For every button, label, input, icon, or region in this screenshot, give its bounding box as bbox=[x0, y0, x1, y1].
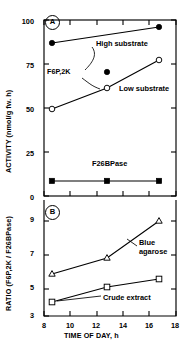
series-crude-extract bbox=[49, 276, 162, 305]
series-low-substrate bbox=[49, 57, 162, 112]
panel-a-axes bbox=[44, 20, 176, 196]
marker-open-triangle bbox=[104, 255, 110, 261]
marker-open-triangle bbox=[156, 218, 162, 224]
marker-filled-square bbox=[49, 178, 54, 183]
marker-filled-square bbox=[156, 178, 161, 183]
plot-vector-layer bbox=[0, 0, 194, 344]
marker-filled-circle bbox=[49, 40, 54, 45]
marker-open-circle bbox=[104, 85, 110, 91]
figure-root: ACTIVITY (nmol/g fw. h) 100 75 50 25 0 A… bbox=[0, 0, 194, 344]
marker-open-circle bbox=[156, 57, 162, 63]
series-high-substrate bbox=[49, 24, 161, 45]
series-blue-agarose bbox=[49, 218, 162, 277]
marker-open-square bbox=[156, 276, 162, 282]
marker-open-circle bbox=[49, 106, 55, 112]
marker-open-square bbox=[104, 284, 110, 290]
marker-filled-circle bbox=[156, 24, 161, 29]
marker-filled-circle-isolated bbox=[104, 69, 109, 74]
series-f26bpase bbox=[49, 178, 161, 183]
f6p2k-brace-leader bbox=[82, 47, 100, 89]
marker-open-square bbox=[49, 299, 55, 305]
marker-filled-square bbox=[104, 178, 109, 183]
